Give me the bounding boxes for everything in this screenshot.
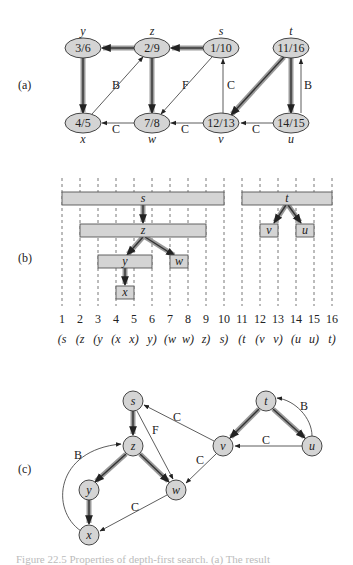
svg-text:15: 15 xyxy=(308,312,320,326)
svg-text:16: 16 xyxy=(326,312,338,326)
svg-text:w: w xyxy=(175,254,183,268)
interval-v: v xyxy=(260,223,278,237)
svg-text:11: 11 xyxy=(236,312,248,326)
svg-text:6: 6 xyxy=(149,312,155,326)
node-c-w: w xyxy=(166,480,186,500)
svg-text:10: 10 xyxy=(218,312,230,326)
svg-text:s: s xyxy=(141,191,146,205)
node-a-w: 7/8 w xyxy=(134,113,170,146)
panel-c-label: (c) xyxy=(18,462,31,476)
svg-text:12/13: 12/13 xyxy=(207,116,234,130)
node-a-s: s 1/10 xyxy=(203,24,239,58)
svg-text:v): v) xyxy=(273,332,282,346)
svg-text:u): u) xyxy=(309,332,319,346)
svg-text:(x: (x xyxy=(111,332,121,346)
svg-text:3: 3 xyxy=(95,312,101,326)
svg-text:w: w xyxy=(172,483,180,497)
svg-text:u: u xyxy=(288,132,294,146)
interval-w: w xyxy=(170,254,188,268)
interval-tree-edges xyxy=(125,205,301,285)
edge-label-c-u-t: B xyxy=(300,399,308,413)
node-a-v: 12/13 v xyxy=(203,113,239,146)
interval-t: t xyxy=(242,191,332,205)
svg-text:z: z xyxy=(149,24,155,38)
svg-text:14/15: 14/15 xyxy=(277,116,304,130)
svg-text:x: x xyxy=(79,132,86,146)
parenthesis-sequence: (s (z (y (x x) y) (w w) z) s) (t (v v) (… xyxy=(58,332,336,346)
node-c-x: x xyxy=(79,525,99,545)
svg-text:7: 7 xyxy=(167,312,173,326)
node-c-s: s xyxy=(123,391,143,411)
svg-text:9: 9 xyxy=(203,312,209,326)
svg-text:z): z) xyxy=(201,332,211,346)
svg-text:1/10: 1/10 xyxy=(210,41,231,55)
edge-label-c-x-z: B xyxy=(74,448,82,462)
interval-y: y xyxy=(98,254,152,268)
svg-text:w): w) xyxy=(182,332,194,346)
svg-text:8: 8 xyxy=(185,312,191,326)
svg-text:5: 5 xyxy=(131,312,137,326)
interval-z: z xyxy=(80,223,206,237)
svg-text:y: y xyxy=(79,24,86,38)
svg-text:v: v xyxy=(266,223,272,237)
interval-s: s xyxy=(62,191,224,205)
edge-label-c-v-w: C xyxy=(196,453,204,467)
svg-text:(w: (w xyxy=(164,332,176,346)
node-c-t: t xyxy=(256,391,276,411)
panel-c: (c) B F C B xyxy=(18,391,322,545)
svg-text:7/8: 7/8 xyxy=(144,116,159,130)
figure-caption: Figure 22.5 Properties of depth-first se… xyxy=(16,553,270,565)
edge-label-w-x: C xyxy=(112,122,120,136)
panel-a: (a) B F C B xyxy=(18,24,312,146)
svg-text:(z: (z xyxy=(76,332,85,346)
node-a-u: 14/15 u xyxy=(273,113,309,146)
svg-text:(s: (s xyxy=(58,332,67,346)
svg-text:2: 2 xyxy=(77,312,83,326)
svg-text:14: 14 xyxy=(290,312,302,326)
edge-label-c-w-x: C xyxy=(131,500,139,514)
nontree-edges-a xyxy=(92,57,301,123)
svg-text:t: t xyxy=(289,24,293,38)
svg-text:s: s xyxy=(219,24,224,38)
node-a-t: t 11/16 xyxy=(273,24,309,58)
svg-text:(y: (y xyxy=(93,332,103,346)
svg-text:v: v xyxy=(220,439,226,453)
edge-label-v-w: C xyxy=(181,122,189,136)
svg-text:x: x xyxy=(85,528,92,542)
svg-text:y): y) xyxy=(146,332,156,346)
node-a-y: y 3/6 xyxy=(65,24,101,58)
timeline-ticks: 1 2 3 4 5 6 7 8 9 10 11 12 13 14 15 16 xyxy=(59,312,338,326)
node-c-z: z xyxy=(123,436,143,456)
edge-label-u-t: B xyxy=(304,78,312,92)
svg-text:x): x) xyxy=(128,332,138,346)
svg-text:w: w xyxy=(148,132,156,146)
svg-text:v: v xyxy=(218,132,224,146)
svg-text:y: y xyxy=(121,254,128,268)
edge-label-x-z: B xyxy=(112,78,120,92)
svg-text:1: 1 xyxy=(59,312,65,326)
interval-u: u xyxy=(296,223,314,237)
svg-text:(t: (t xyxy=(238,332,246,346)
edge-label-u-v: C xyxy=(252,122,260,136)
svg-text:12: 12 xyxy=(254,312,266,326)
svg-text:z: z xyxy=(140,223,146,237)
node-c-u: u xyxy=(302,436,322,456)
svg-text:x: x xyxy=(121,285,128,299)
nontree-edges-c xyxy=(63,398,312,531)
svg-text:13: 13 xyxy=(272,312,284,326)
edge-label-v-s: C xyxy=(227,78,235,92)
panel-a-label: (a) xyxy=(18,78,31,92)
svg-text:y: y xyxy=(85,483,92,497)
panel-b: (b) xyxy=(18,178,338,346)
svg-text:u: u xyxy=(309,439,315,453)
dfs-figure: (a) B F C B xyxy=(0,0,353,565)
svg-text:11/16: 11/16 xyxy=(278,41,305,55)
interval-x: x xyxy=(116,285,134,299)
panel-b-label: (b) xyxy=(18,251,32,265)
node-c-v: v xyxy=(213,436,233,456)
svg-text:(v: (v xyxy=(255,332,265,346)
edge-label-c-u-v: C xyxy=(262,433,270,447)
svg-text:s): s) xyxy=(220,332,229,346)
svg-text:(u: (u xyxy=(291,332,301,346)
svg-text:u: u xyxy=(302,223,308,237)
